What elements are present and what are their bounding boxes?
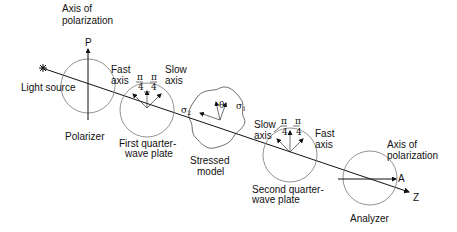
analyzer: A Axis of polarization Analyzer <box>338 139 438 224</box>
qwp2-slow-axis-1: Slow <box>254 119 276 130</box>
qwp2-four-right: 4 <box>296 127 302 137</box>
qwp2-four-left: 4 <box>282 127 288 137</box>
analyzer-axis-letter: A <box>398 173 405 184</box>
qwp1-four-left: 4 <box>138 82 144 92</box>
qwp1-fast-axis-1: Fast <box>111 64 131 75</box>
stressed-model-label-2: model <box>197 166 224 177</box>
qwp1-pi-left: π <box>137 72 143 82</box>
polarizer-axis-letter: P <box>85 37 92 48</box>
z-axis-label: Z <box>413 192 419 203</box>
qwp2-label-2: wave plate <box>251 194 300 205</box>
stressed-model: θ σ1 σ2 Stressed model <box>181 87 246 177</box>
second-quarter-wave-plate: π 4 π 4 Slow axis Fast axis Second quart… <box>251 116 335 205</box>
qwp2-slow-axis-2: axis <box>254 130 272 141</box>
qwp1-pi-right: π <box>151 72 157 82</box>
light-source-label: Light source <box>21 82 76 93</box>
qwp1-label-2: wave plate <box>124 148 173 159</box>
polarizer-axis-label-1: Axis of <box>62 3 92 14</box>
qwp1-four-right: 4 <box>151 82 157 92</box>
star-burst-icon <box>39 64 47 72</box>
qwp1-fast-axis-2: axis <box>111 75 129 86</box>
theta-label: θ <box>219 100 224 110</box>
sigma2-label: σ2 <box>181 105 191 116</box>
analyzer-axis-label-1: Axis of <box>387 139 417 150</box>
qwp2-pi-right: π <box>295 116 301 126</box>
polariscope-diagram: Z Light source P Axis of polarization Po… <box>0 0 457 232</box>
qwp2-fast-axis-1: Fast <box>315 128 335 139</box>
sigma1-label: σ1 <box>236 101 246 112</box>
qwp2-fast-axis-2: axis <box>315 139 333 150</box>
qwp1-slow-axis-1: Slow <box>165 64 187 75</box>
first-quarter-wave-plate: π 4 π 4 Fast axis Slow axis First quarte… <box>111 64 187 159</box>
polarizer-label: Polarizer <box>65 131 105 142</box>
qwp2-pi-left: π <box>281 116 287 126</box>
analyzer-label: Analyzer <box>350 213 390 224</box>
polarizer-axis-label-2: polarization <box>62 15 113 26</box>
stressed-model-label-1: Stressed <box>190 155 229 166</box>
polarizer: P Axis of polarization Polarizer <box>61 3 115 142</box>
analyzer-axis-label-2: polarization <box>387 150 438 161</box>
qwp1-slow-axis-2: axis <box>165 75 183 86</box>
